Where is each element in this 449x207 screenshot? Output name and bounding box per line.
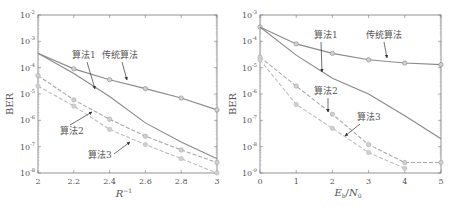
left-x-tick-labels: 22.22.42.62.83 — [35, 177, 219, 186]
series-marker — [36, 84, 40, 88]
series-line — [260, 27, 441, 65]
left-y-tick-labels: 10-810-710-610-510-410-310-2 — [20, 9, 35, 178]
y-tick-label: 10-7 — [20, 141, 35, 152]
series-marker — [330, 112, 334, 116]
left-annotation-alg2: 算法2 — [60, 125, 84, 136]
right-series — [258, 25, 443, 171]
y-tick-label: 10-7 — [242, 114, 257, 125]
left-arrow-alg3 — [114, 142, 130, 154]
y-tick-label: 10-6 — [20, 114, 35, 125]
left-arrow-traditional — [122, 62, 127, 80]
series-marker — [366, 150, 370, 154]
left-x-axis-label: R−1 — [115, 187, 132, 199]
series-line — [38, 53, 217, 158]
left-arrow-alg2 — [70, 112, 92, 125]
series-marker — [330, 51, 334, 55]
right-y-axis-label: BER — [227, 92, 238, 115]
series-marker — [36, 73, 40, 77]
right-annotation-alg1: 算法1 — [314, 29, 338, 40]
series-marker — [179, 156, 183, 160]
series-marker — [107, 117, 111, 121]
series-marker — [366, 58, 370, 62]
x-tick-label: 2 — [330, 177, 335, 186]
y-tick-label: 10-3 — [20, 35, 35, 46]
series-marker — [215, 108, 219, 112]
right-x-axis-label: Eb/N0 — [333, 187, 361, 199]
y-tick-label: 10-5 — [242, 62, 257, 73]
series-line — [260, 27, 441, 139]
x-tick-label: 2.4 — [103, 177, 116, 186]
series-marker — [294, 42, 298, 46]
y-tick-label: 10-2 — [20, 9, 35, 20]
x-tick-label: 1 — [294, 177, 299, 186]
right-x-tick-labels: 012345 — [257, 177, 443, 186]
left-annotation-traditional: 传统算法 — [102, 49, 138, 60]
series-marker — [403, 160, 407, 164]
x-tick-label: 3 — [214, 177, 219, 186]
series-marker — [439, 62, 443, 66]
series-marker — [294, 84, 298, 88]
series-marker — [366, 142, 370, 146]
series-marker — [215, 160, 219, 164]
series-line — [260, 57, 441, 162]
series-marker — [143, 142, 147, 146]
series-marker — [72, 104, 76, 108]
series-marker — [330, 126, 334, 130]
y-tick-label: 10-6 — [242, 88, 257, 99]
x-tick-label: 2.8 — [175, 177, 188, 186]
left-chart: 10-810-710-610-510-410-310-2 22.22.42.62… — [4, 9, 220, 199]
series-marker — [72, 98, 76, 102]
series-marker — [107, 127, 111, 131]
right-arrow-alg1 — [321, 42, 322, 72]
right-chart: 10-910-810-710-610-510-410-3 012345 BER … — [227, 9, 444, 199]
right-annotation-alg3: 算法3 — [357, 111, 381, 122]
right-y-tick-labels: 10-910-810-710-610-510-410-3 — [242, 9, 257, 178]
y-tick-label: 10-5 — [20, 88, 35, 99]
series-marker — [143, 134, 147, 138]
figure: 10-810-710-610-510-410-310-2 22.22.42.62… — [0, 0, 449, 207]
y-tick-label: 10-3 — [242, 9, 257, 20]
series-marker — [294, 102, 298, 106]
series-marker — [179, 96, 183, 100]
left-y-axis-label: BER — [4, 92, 15, 115]
right-annotation-traditional: 传统算法 — [366, 29, 402, 40]
series-marker — [143, 86, 147, 90]
y-tick-label: 10-4 — [20, 62, 35, 73]
series-marker — [107, 77, 111, 81]
series-marker — [439, 160, 443, 164]
series-marker — [179, 148, 183, 152]
right-arrow-traditional — [384, 42, 387, 58]
x-tick-label: 5 — [438, 177, 443, 186]
series-marker — [258, 58, 262, 62]
y-tick-label: 10-8 — [242, 141, 257, 152]
x-tick-label: 2.6 — [139, 177, 152, 186]
x-tick-label: 0 — [257, 177, 262, 186]
right-annotation-alg2: 算法2 — [314, 85, 338, 96]
y-tick-label: 10-9 — [242, 167, 257, 178]
series-marker — [72, 67, 76, 71]
x-tick-label: 2 — [35, 177, 40, 186]
y-tick-label: 10-4 — [242, 35, 257, 46]
x-tick-label: 3 — [366, 177, 371, 186]
right-arrow-alg3 — [345, 124, 360, 136]
y-tick-label: 10-8 — [20, 167, 35, 178]
series-marker — [403, 166, 407, 170]
series-line — [38, 76, 217, 163]
left-series — [36, 53, 219, 175]
left-annotation-alg3: 算法3 — [88, 149, 112, 160]
x-tick-label: 2.2 — [67, 177, 80, 186]
x-tick-label: 4 — [402, 177, 407, 186]
series-marker — [215, 171, 219, 175]
series-marker — [403, 61, 407, 65]
left-annotation-alg1: 算法1 — [72, 49, 96, 60]
